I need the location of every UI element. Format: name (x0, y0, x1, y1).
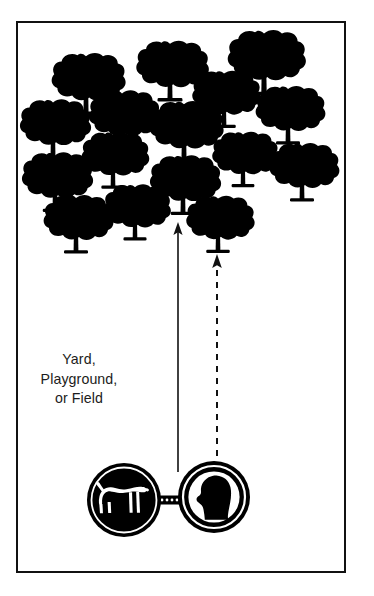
area-label-line-2: Playground, (14, 370, 144, 390)
area-label: Yard, Playground, or Field (14, 350, 144, 409)
area-label-line-3: or Field (14, 389, 144, 409)
area-label-line-1: Yard, (14, 350, 144, 370)
diagram-canvas: Yard, Playground, or Field (0, 0, 374, 596)
diagram-border (16, 21, 346, 573)
